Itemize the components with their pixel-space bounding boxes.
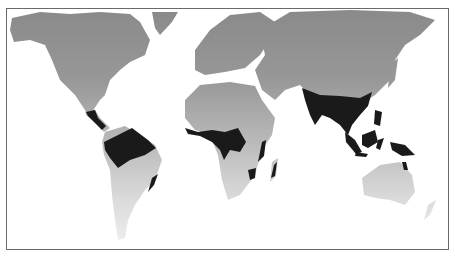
rainforest-java <box>355 152 368 157</box>
rainforest-sumatra <box>345 132 362 154</box>
rainforest-new-guinea <box>390 142 415 156</box>
new-zealand <box>424 200 436 220</box>
rainforest-philippines <box>374 110 382 126</box>
greenland <box>152 12 178 35</box>
land-masses <box>10 10 436 240</box>
north-america <box>10 12 150 112</box>
asia <box>255 10 435 110</box>
world-map <box>0 0 455 257</box>
rainforest-central-america <box>86 110 106 130</box>
rainforest-borneo <box>362 130 378 148</box>
